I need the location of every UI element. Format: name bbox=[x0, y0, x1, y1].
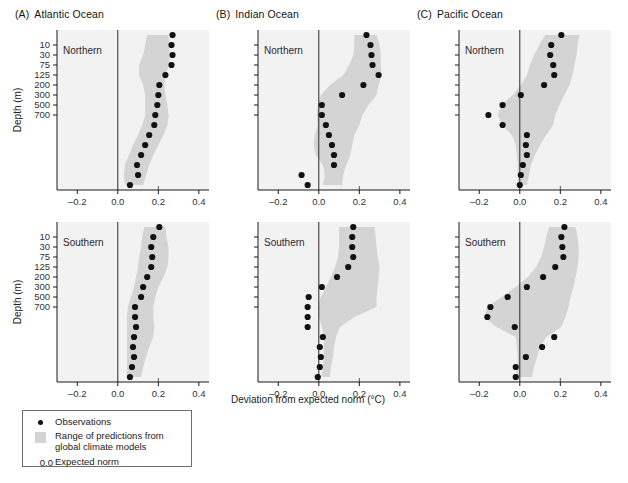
observation-point bbox=[369, 62, 375, 68]
observation-point bbox=[305, 324, 311, 330]
observation-point bbox=[558, 234, 564, 240]
observation-point bbox=[148, 264, 154, 270]
panel-ocean-name: Pacific Ocean bbox=[437, 8, 503, 20]
plot-panel-b-northern: Northern–0.20.00.20.4 bbox=[210, 24, 422, 224]
x-tick-label: 0.2 bbox=[554, 196, 567, 207]
observation-point bbox=[168, 42, 174, 48]
observation-point bbox=[524, 152, 530, 158]
x-tick-label: –0.2 bbox=[68, 388, 87, 399]
observation-point bbox=[520, 162, 526, 168]
observation-point bbox=[130, 344, 136, 350]
observation-point bbox=[329, 142, 335, 148]
observation-point bbox=[512, 324, 518, 330]
hemisphere-label: Southern bbox=[264, 237, 305, 248]
observation-point bbox=[552, 264, 558, 270]
observation-point bbox=[162, 72, 168, 78]
observation-point bbox=[484, 314, 490, 320]
observation-point bbox=[155, 92, 161, 98]
observation-point bbox=[150, 234, 156, 240]
panel-title-a: (A)Atlantic Ocean bbox=[15, 8, 104, 20]
x-tick-label: 0.0 bbox=[513, 196, 526, 207]
observation-point bbox=[138, 152, 144, 158]
observation-point bbox=[149, 254, 155, 260]
observation-point bbox=[367, 42, 373, 48]
observation-point bbox=[550, 62, 556, 68]
observation-point bbox=[319, 284, 325, 290]
observation-point bbox=[517, 182, 523, 188]
legend-row-observations: Observations bbox=[25, 416, 187, 428]
observation-point bbox=[363, 32, 369, 38]
hemisphere-label: Northern bbox=[63, 45, 102, 56]
panel-title-b: (B)Indian Ocean bbox=[216, 8, 299, 20]
x-tick-label: 0.0 bbox=[111, 388, 124, 399]
x-tick-label: 0.4 bbox=[393, 196, 406, 207]
observation-point bbox=[135, 172, 141, 178]
observation-point bbox=[138, 294, 144, 300]
observation-point bbox=[499, 122, 505, 128]
y-axis-title: Depth (m) bbox=[12, 88, 23, 132]
observation-point bbox=[132, 304, 138, 310]
observation-point bbox=[350, 224, 356, 230]
plot-panel-a-southern: Southern103075125200300500700–0.20.00.20… bbox=[9, 216, 221, 416]
observation-point bbox=[541, 82, 547, 88]
legend-row-expected-norm: 0.0Expected norm bbox=[25, 456, 187, 469]
observation-point bbox=[305, 182, 311, 188]
observation-point bbox=[505, 294, 511, 300]
legend-box: ObservationsRange of predictions from gl… bbox=[22, 410, 192, 467]
observation-point bbox=[134, 162, 140, 168]
observation-point bbox=[127, 182, 133, 188]
x-tick-label: 0.4 bbox=[192, 388, 205, 399]
observation-point bbox=[345, 264, 351, 270]
hemisphere-label: Southern bbox=[63, 237, 104, 248]
observation-point bbox=[547, 52, 553, 58]
observation-point bbox=[305, 304, 311, 310]
observation-point bbox=[306, 294, 312, 300]
observation-dot-icon bbox=[38, 420, 43, 425]
legend-expected-norm-label: Expected norm bbox=[55, 456, 119, 467]
x-tick-label: 0.0 bbox=[312, 196, 325, 207]
observation-point bbox=[319, 102, 325, 108]
observation-point bbox=[305, 314, 311, 320]
x-tick-label: 0.4 bbox=[594, 388, 607, 399]
observation-point bbox=[513, 364, 519, 370]
observation-point bbox=[129, 364, 135, 370]
legend-observations-label: Observations bbox=[55, 416, 111, 427]
observation-point bbox=[315, 374, 321, 380]
observation-point bbox=[132, 314, 138, 320]
observation-point bbox=[349, 234, 355, 240]
observation-point bbox=[523, 354, 529, 360]
observation-point bbox=[559, 244, 565, 250]
observation-point bbox=[560, 254, 566, 260]
observation-point bbox=[523, 142, 529, 148]
x-tick-label: 0.0 bbox=[513, 388, 526, 399]
figure-root: (A)Atlantic Ocean(B)Indian Ocean(C)Pacif… bbox=[0, 0, 628, 483]
observation-point bbox=[513, 374, 519, 380]
hemisphere-label: Northern bbox=[465, 45, 504, 56]
x-tick-label: 0.4 bbox=[594, 196, 607, 207]
legend-row-model-range: Range of predictions from global climate… bbox=[25, 430, 187, 453]
observation-point bbox=[331, 162, 337, 168]
range-swatch-icon bbox=[35, 432, 46, 443]
y-axis-title: Depth (m) bbox=[12, 280, 23, 324]
x-axis-title: Deviation from expected norm (°C) bbox=[231, 394, 385, 405]
observation-point bbox=[487, 304, 493, 310]
observation-point bbox=[131, 354, 137, 360]
legend-range-label: Range of predictions from global climate… bbox=[55, 430, 164, 453]
observation-point bbox=[148, 244, 154, 250]
observation-point bbox=[334, 274, 340, 280]
observation-point bbox=[320, 334, 326, 340]
observation-point bbox=[169, 32, 175, 38]
x-tick-label: 0.2 bbox=[353, 196, 366, 207]
observation-point bbox=[298, 172, 304, 178]
observation-point bbox=[317, 364, 323, 370]
observation-point bbox=[127, 374, 133, 380]
observation-point bbox=[375, 72, 381, 78]
observation-point bbox=[154, 102, 160, 108]
observation-point bbox=[317, 344, 323, 350]
observation-point bbox=[485, 112, 491, 118]
observation-point bbox=[323, 122, 329, 128]
observation-point bbox=[131, 334, 137, 340]
x-tick-label: 0.4 bbox=[393, 388, 406, 399]
observation-point bbox=[561, 224, 567, 230]
plot-panel-c-northern: Northern–0.20.00.20.4 bbox=[411, 24, 623, 224]
